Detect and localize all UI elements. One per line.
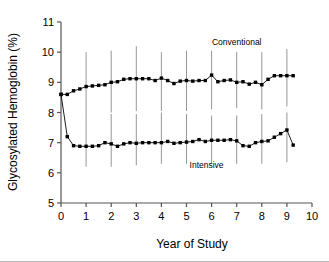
data-point-marker (222, 139, 225, 142)
data-point-marker (229, 78, 232, 81)
data-point-marker (260, 83, 263, 86)
x-tick-label: 0 (58, 210, 64, 222)
figure-container: 567891011012345678910ConventionalIntensi… (0, 0, 329, 262)
data-point-marker (110, 81, 113, 84)
data-point-marker (185, 79, 188, 82)
data-point-marker (72, 144, 75, 147)
x-tick-label: 8 (259, 210, 265, 222)
x-axis-label: Year of Study (156, 237, 228, 251)
data-point-marker (116, 145, 119, 148)
x-tick-label: 7 (234, 210, 240, 222)
data-point-marker (210, 73, 213, 76)
data-point-marker (291, 143, 294, 146)
x-tick-label: 1 (83, 210, 89, 222)
data-point-marker (91, 84, 94, 87)
y-tick-label: 7 (48, 137, 54, 149)
data-point-marker (78, 87, 81, 90)
data-point-marker (72, 89, 75, 92)
data-point-marker (97, 84, 100, 87)
data-point-marker (204, 79, 207, 82)
x-tick-label: 5 (183, 210, 189, 222)
data-point-marker (241, 144, 244, 147)
series-line (61, 75, 293, 94)
series-label-intensive: Intensive (190, 160, 224, 170)
series-label-conventional: Conventional (212, 37, 262, 47)
data-point-marker (291, 74, 294, 77)
data-point-marker (185, 140, 188, 143)
data-point-marker (103, 83, 106, 86)
data-point-marker (66, 93, 69, 96)
data-point-marker (210, 139, 213, 142)
data-point-marker (260, 140, 263, 143)
data-point-marker (97, 144, 100, 147)
data-point-marker (235, 139, 238, 142)
x-tick-label: 4 (158, 210, 164, 222)
y-tick-label: 10 (42, 46, 54, 58)
y-tick-label: 6 (48, 167, 54, 179)
data-point-marker (172, 82, 175, 85)
data-point-marker (266, 139, 269, 142)
data-point-marker (197, 138, 200, 141)
data-point-marker (103, 141, 106, 144)
y-axis-label: Glycosylated Hemoglobin (%) (6, 33, 20, 191)
data-point-marker (172, 142, 175, 145)
data-point-marker (153, 79, 156, 82)
data-point-marker (160, 141, 163, 144)
data-point-marker (59, 93, 62, 96)
data-point-marker (84, 85, 87, 88)
x-tick-label: 3 (133, 210, 139, 222)
data-point-marker (166, 79, 169, 82)
data-point-marker (222, 79, 225, 82)
y-tick-label: 8 (48, 107, 54, 119)
data-point-marker (279, 132, 282, 135)
data-point-marker (135, 77, 138, 80)
y-tick-label: 9 (48, 76, 54, 88)
data-point-marker (141, 77, 144, 80)
data-point-marker (179, 141, 182, 144)
data-point-marker (191, 79, 194, 82)
data-point-marker (128, 141, 131, 144)
data-point-marker (153, 141, 156, 144)
x-tick-label: 2 (108, 210, 114, 222)
data-point-marker (166, 140, 169, 143)
x-tick-label: 10 (306, 210, 318, 222)
data-point-marker (116, 80, 119, 83)
data-point-marker (191, 140, 194, 143)
data-point-marker (273, 74, 276, 77)
data-point-marker (197, 79, 200, 82)
x-tick-label: 9 (284, 210, 290, 222)
data-point-marker (147, 141, 150, 144)
data-point-marker (128, 77, 131, 80)
data-point-marker (266, 78, 269, 81)
data-point-marker (141, 141, 144, 144)
data-point-marker (248, 145, 251, 148)
data-point-marker (84, 145, 87, 148)
data-point-marker (229, 138, 232, 141)
data-point-marker (204, 140, 207, 143)
data-point-marker (160, 76, 163, 79)
data-point-marker (241, 80, 244, 83)
series-line (61, 94, 293, 146)
y-tick-label: 5 (48, 197, 54, 209)
data-point-marker (78, 145, 81, 148)
x-tick-label: 6 (209, 210, 215, 222)
data-point-marker (122, 142, 125, 145)
data-point-marker (235, 81, 238, 84)
data-point-marker (248, 82, 251, 85)
data-point-marker (279, 74, 282, 77)
data-point-marker (216, 80, 219, 83)
data-point-marker (66, 135, 69, 138)
data-point-marker (285, 128, 288, 131)
data-point-marker (285, 74, 288, 77)
data-point-marker (273, 136, 276, 139)
data-point-marker (147, 77, 150, 80)
y-tick-label: 11 (43, 16, 54, 28)
data-point-marker (135, 142, 138, 145)
data-point-marker (110, 142, 113, 145)
data-point-marker (254, 81, 257, 84)
data-point-marker (179, 79, 182, 82)
data-point-marker (91, 145, 94, 148)
data-point-marker (122, 78, 125, 81)
data-point-marker (216, 139, 219, 142)
data-point-marker (254, 141, 257, 144)
